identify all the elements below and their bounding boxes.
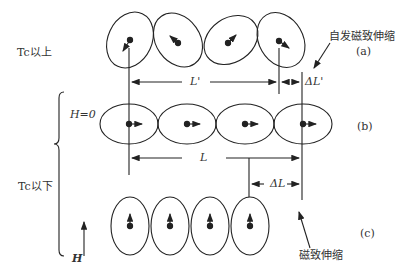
label-spontaneous-magnetostriction: 自发磁致伸缩	[329, 27, 395, 43]
label-l-prime: L'	[190, 75, 200, 88]
label-h-field: H	[72, 252, 82, 265]
label-magnetostriction: 磁致伸缩	[299, 246, 343, 262]
label-h-zero: H=0	[70, 108, 96, 121]
label-above-tc: Tc以上	[17, 43, 52, 59]
label-delta-l-prime: ΔL'	[305, 75, 323, 88]
label-delta-l: ΔL	[270, 177, 285, 190]
label-below-tc: Tc以下	[18, 177, 53, 193]
label-panel-b: (b)	[357, 120, 373, 133]
label-panel-c: (c)	[360, 227, 375, 240]
label-panel-a: (a)	[356, 45, 371, 58]
label-l: L	[200, 151, 207, 164]
